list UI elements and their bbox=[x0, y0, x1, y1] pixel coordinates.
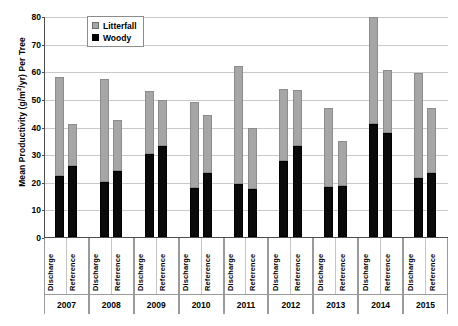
x-axis-year-label: 2015 bbox=[404, 294, 447, 315]
y-axis-tick-label: 50 bbox=[32, 95, 41, 105]
stacked-bar bbox=[324, 108, 333, 237]
x-axis-year-label: 2008 bbox=[90, 294, 133, 315]
x-axis-subcategory-cell: Reference bbox=[291, 238, 312, 294]
bar-segment-litterfall bbox=[190, 102, 199, 188]
stacked-bar bbox=[414, 73, 423, 237]
bar-segment-woody bbox=[324, 187, 333, 237]
bar-segment-woody bbox=[338, 186, 347, 237]
subcategory-cells: DischargeReference bbox=[45, 238, 88, 294]
x-axis-subcategory-label: Reference bbox=[203, 254, 212, 291]
stacked-bar bbox=[113, 120, 122, 237]
x-axis-subcategory-cell: Reference bbox=[157, 238, 178, 294]
bar-segment-woody bbox=[190, 188, 199, 237]
bar-segment-litterfall bbox=[383, 70, 392, 133]
stacked-bar bbox=[234, 66, 243, 237]
stacked-bar bbox=[383, 70, 392, 237]
chart-legend: Litterfall Woody bbox=[87, 16, 144, 47]
x-axis-year-label: 2011 bbox=[225, 294, 268, 315]
subcategory-cells: DischargeReference bbox=[314, 238, 357, 294]
legend-label-litterfall: Litterfall bbox=[103, 21, 137, 31]
bar-segment-woody bbox=[68, 166, 77, 237]
bar-segment-litterfall bbox=[414, 73, 423, 178]
x-axis-subcategory-cell: Discharge bbox=[404, 238, 426, 294]
x-axis-subcategory-label: Reference bbox=[293, 254, 302, 291]
stacked-bar bbox=[203, 115, 212, 237]
woody-swatch-icon bbox=[92, 34, 99, 41]
bar-segment-woody bbox=[100, 182, 109, 237]
x-axis-subcategory-label: Reference bbox=[338, 254, 347, 291]
stacked-bar bbox=[145, 91, 154, 237]
y-axis-tick-label: 20 bbox=[32, 178, 41, 188]
x-axis-subcategory-cell: Reference bbox=[426, 238, 447, 294]
x-axis-subcategory-label: Discharge bbox=[46, 254, 55, 291]
y-axis-title-tail: /yr) Per Tree bbox=[17, 37, 27, 87]
x-axis-subcategory-label: Discharge bbox=[361, 254, 370, 291]
litterfall-swatch-icon bbox=[92, 22, 99, 29]
x-axis-subcategory-cell: Discharge bbox=[314, 238, 336, 294]
bar-segment-woody bbox=[234, 184, 243, 237]
year-group-2010: DischargeReference2010 bbox=[179, 238, 224, 314]
year-group-2013: DischargeReference2013 bbox=[313, 238, 358, 314]
legend-item-woody: Woody bbox=[92, 32, 137, 43]
subcategory-cells: DischargeReference bbox=[180, 238, 223, 294]
year-group-2008: DischargeReference2008 bbox=[89, 238, 134, 314]
subcategory-cells: DischargeReference bbox=[359, 238, 402, 294]
bar-segment-litterfall bbox=[158, 100, 167, 146]
bar-segment-litterfall bbox=[113, 120, 122, 172]
x-axis-subcategory-cell: Discharge bbox=[180, 238, 202, 294]
x-axis-subcategory-label: Discharge bbox=[226, 254, 235, 291]
bar-segment-litterfall bbox=[203, 115, 212, 173]
x-axis-subcategory-cell: Reference bbox=[336, 238, 357, 294]
bar-segment-woody bbox=[293, 146, 302, 237]
legend-label-woody: Woody bbox=[103, 33, 131, 43]
bar-segment-woody bbox=[113, 171, 122, 237]
x-axis-subcategory-cell: Reference bbox=[202, 238, 223, 294]
x-axis-subcategory-cell: Discharge bbox=[135, 238, 157, 294]
y-axis-title-main: Mean Productivity (g/m bbox=[17, 91, 27, 187]
x-axis-subcategory-label: Discharge bbox=[181, 254, 190, 291]
year-group-2009: DischargeReference2009 bbox=[134, 238, 179, 314]
year-group-2015: DischargeReference2015 bbox=[403, 238, 448, 314]
stacked-bar bbox=[158, 100, 167, 237]
year-group-2012: DischargeReference2012 bbox=[268, 238, 313, 314]
x-axis-year-label: 2013 bbox=[314, 294, 357, 315]
stacked-bar bbox=[293, 90, 302, 237]
stacked-bar bbox=[248, 128, 257, 237]
x-axis-year-label: 2010 bbox=[180, 294, 223, 315]
x-axis-subcategory-label: Reference bbox=[68, 254, 77, 291]
bar-segment-litterfall bbox=[68, 124, 77, 166]
subcategory-cells: DischargeReference bbox=[90, 238, 133, 294]
y-axis-tick-label: 30 bbox=[32, 150, 41, 160]
stacked-bar bbox=[427, 108, 436, 237]
x-axis-subcategory-cell: Discharge bbox=[269, 238, 291, 294]
year-group-2014: DischargeReference2014 bbox=[358, 238, 403, 314]
x-axis-subcategory-label: Reference bbox=[248, 254, 257, 291]
x-axis-subcategory-label: Reference bbox=[428, 254, 437, 291]
y-axis-tick-label: 70 bbox=[32, 40, 41, 50]
y-axis-tick-label: 80 bbox=[32, 12, 41, 22]
bar-segment-woody bbox=[55, 176, 64, 237]
x-axis-subcategory-label: Reference bbox=[158, 254, 167, 291]
bar-segment-litterfall bbox=[234, 66, 243, 184]
stacked-bar bbox=[190, 102, 199, 237]
bar-segment-litterfall bbox=[338, 141, 347, 186]
x-axis-year-label: 2012 bbox=[269, 294, 312, 315]
y-axis-tick-label: 60 bbox=[32, 67, 41, 77]
bar-segment-litterfall bbox=[248, 128, 257, 189]
stacked-bar bbox=[369, 17, 378, 237]
bar-segment-litterfall bbox=[293, 90, 302, 146]
x-axis-year-label: 2007 bbox=[45, 294, 88, 315]
y-axis-title-superscript: 2 bbox=[16, 88, 22, 91]
x-axis-subcategory-cell: Reference bbox=[246, 238, 267, 294]
bar-segment-litterfall bbox=[55, 77, 64, 176]
stacked-bar bbox=[68, 124, 77, 237]
bar-segment-woody bbox=[369, 124, 378, 237]
x-axis-subcategory-cell: Discharge bbox=[45, 238, 67, 294]
subcategory-cells: DischargeReference bbox=[404, 238, 447, 294]
bar-segment-litterfall bbox=[145, 91, 154, 154]
stacked-bar bbox=[55, 77, 64, 237]
bar-segment-litterfall bbox=[427, 108, 436, 173]
x-axis-subcategory-label: Reference bbox=[113, 254, 122, 291]
bar-segment-litterfall bbox=[279, 89, 288, 161]
chart-container: Mean Productivity (g/m2/yr) Per Tree 010… bbox=[0, 0, 458, 326]
